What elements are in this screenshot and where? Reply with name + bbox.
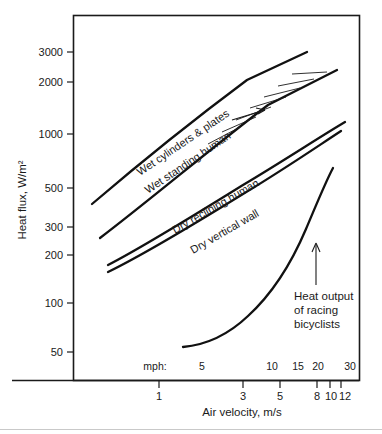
mph-tick-label-5: 5 xyxy=(199,360,205,372)
y-tick-label-100: 100 xyxy=(45,297,63,309)
x-tick-label-1: 1 xyxy=(156,390,162,402)
bicyclist-annotation-line-1: Heat output xyxy=(294,290,354,302)
y-tick-label-3000: 3000 xyxy=(39,46,63,58)
y-axis-title: Heat flux, W/m² xyxy=(16,160,28,239)
x-tick-label-10: 10 xyxy=(325,390,337,402)
chart-svg: 3000 2000 1000 500 300 200 100 50 Heat f… xyxy=(0,0,382,434)
x-tick-label-12: 12 xyxy=(339,390,351,402)
mph-tick-label-20: 20 xyxy=(312,360,324,372)
y-tick-label-2000: 2000 xyxy=(39,76,63,88)
x-tick-label-5: 5 xyxy=(277,390,283,402)
chart-figure: 3000 2000 1000 500 300 200 100 50 Heat f… xyxy=(0,0,382,434)
bicyclist-annotation-line-3: bicyclists xyxy=(294,318,340,330)
mph-tick-label-15: 15 xyxy=(292,360,304,372)
x-tick-label-8: 8 xyxy=(314,390,320,402)
x-tick-label-3: 3 xyxy=(240,390,246,402)
mph-tick-label-10: 10 xyxy=(266,360,278,372)
x-axis-title: Air velocity, m/s xyxy=(202,406,282,418)
y-tick-label-300: 300 xyxy=(45,221,63,233)
mph-unit-label: mph: xyxy=(143,360,166,372)
y-tick-label-50: 50 xyxy=(51,346,63,358)
y-tick-label-500: 500 xyxy=(45,182,63,194)
mph-tick-label-30: 30 xyxy=(344,360,356,372)
y-tick-label-200: 200 xyxy=(45,249,63,261)
y-tick-label-1000: 1000 xyxy=(39,128,63,140)
bicyclist-annotation-line-2: of racing xyxy=(294,304,338,316)
